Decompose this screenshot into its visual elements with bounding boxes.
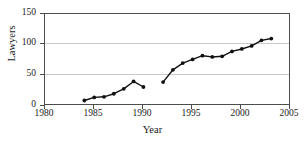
data-series-layer [45, 14, 291, 106]
data-point [181, 61, 185, 65]
data-point [122, 87, 126, 91]
x-tick-label-1990: 1990 [120, 108, 164, 119]
data-point [230, 50, 234, 54]
y-tick-label-100: 100 [0, 38, 36, 48]
data-point [112, 92, 116, 96]
data-point [92, 96, 96, 100]
data-point [210, 55, 214, 59]
series-line [163, 39, 271, 83]
data-point [240, 47, 244, 51]
data-point [250, 44, 254, 48]
y-tick-label-150: 150 [0, 8, 36, 18]
data-point [260, 38, 264, 42]
data-point [142, 85, 146, 89]
y-tick-label-50: 50 [0, 69, 36, 79]
plot-area [44, 13, 290, 105]
x-tick-label-2000: 2000 [218, 108, 262, 119]
data-point [191, 57, 195, 61]
x-tick-label-1980: 1980 [22, 108, 66, 119]
chart-figure: Lawyers Year 150 100 50 0 1980 1985 1990… [0, 0, 305, 141]
data-point [102, 95, 106, 99]
x-tick-label-1995: 1995 [169, 108, 213, 119]
data-point [161, 80, 165, 84]
x-tick-label-2005: 2005 [267, 108, 305, 119]
x-tick-label-1985: 1985 [71, 108, 115, 119]
data-point [220, 54, 224, 58]
data-point [132, 80, 136, 84]
x-axis-title: Year [0, 124, 305, 135]
data-point [269, 37, 273, 41]
data-point [82, 99, 86, 103]
data-point [201, 54, 205, 58]
data-point [171, 68, 175, 72]
